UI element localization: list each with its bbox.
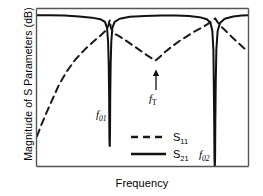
series-line-s21: [37, 15, 248, 165]
chart-figure: Magnitude of S Parameters (dB) Frequency…: [0, 0, 263, 196]
legend-label-s11-sub: 11: [180, 137, 188, 146]
ft-arrow-annotation: [153, 70, 159, 91]
annotation-f01-sub: 01: [99, 114, 107, 123]
legend-label-s11: S11: [173, 131, 188, 146]
legend-label-s21: S21: [173, 148, 189, 163]
plot-area: [0, 0, 263, 196]
annotation-f01: f01: [96, 108, 107, 123]
annotation-ft: fT: [149, 92, 157, 107]
annotation-f02-sub: 02: [202, 154, 210, 163]
annotation-f02: f02: [199, 148, 210, 163]
legend-label-s21-sub: 21: [180, 154, 188, 163]
annotation-ft-sub: T: [152, 98, 157, 107]
